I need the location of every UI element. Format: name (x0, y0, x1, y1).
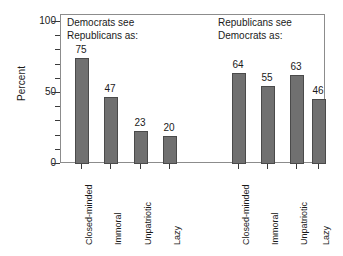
bar-value-label-0-1: 47 (96, 84, 124, 94)
bar-value-label-0-0: 75 (67, 45, 95, 55)
x-tick-0-3 (169, 164, 170, 169)
bar-1-0 (232, 73, 246, 164)
bar-value-label-1-2: 63 (282, 62, 310, 72)
bar-value-label-0-3: 20 (155, 123, 183, 133)
x-category-label-0-3: Lazy (173, 226, 182, 245)
x-tick-1-0 (238, 164, 239, 169)
x-category-label-0-1: Immoral (114, 212, 123, 245)
bar-0-1 (104, 97, 118, 164)
x-tick-0-1 (110, 164, 111, 169)
y-tick-major-100 (52, 21, 60, 22)
bar-0-2 (134, 131, 148, 164)
bar-value-label-0-2: 23 (126, 118, 154, 128)
x-tick-0-0 (81, 164, 82, 169)
x-tick-1-2 (296, 164, 297, 169)
bar-1-1 (261, 86, 275, 164)
x-category-label-1-3: Lazy (322, 226, 331, 245)
x-category-label-0-0: Closed-minded (85, 184, 94, 245)
bar-1-3 (312, 99, 326, 164)
bar-value-label-1-1: 55 (253, 73, 281, 83)
x-tick-0-2 (140, 164, 141, 169)
y-tick-major-50 (52, 92, 60, 93)
y-axis-tick-labels: 100 50 0 (28, 0, 56, 163)
bar-value-label-1-0: 64 (224, 60, 252, 70)
bar-0-3 (163, 136, 177, 164)
bar-0-0 (75, 58, 89, 165)
x-category-label-1-1: Immoral (271, 212, 280, 245)
y-tick-major-0 (52, 163, 60, 164)
group-heading-democrats-see-republicans: Democrats see Republicans as: (67, 17, 138, 42)
bar-1-2 (290, 75, 304, 164)
x-category-label-1-2: Unpatriotic (300, 202, 309, 245)
y-axis-title: Percent (16, 44, 27, 124)
x-category-label-0-2: Unpatriotic (144, 202, 153, 245)
x-tick-1-3 (318, 164, 319, 169)
x-tick-1-1 (267, 164, 268, 169)
group-heading-republicans-see-democrats: Republicans see Democrats as: (218, 17, 292, 42)
bar-value-label-1-3: 46 (304, 86, 332, 96)
x-category-label-1-0: Closed-minded (242, 184, 251, 245)
bar-chart: Percent 100 50 0 Democrats see Republica… (0, 0, 343, 256)
